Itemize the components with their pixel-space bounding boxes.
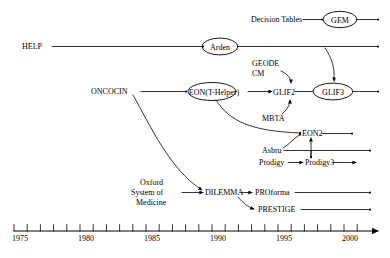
axis-label-1985: 1985 [144,234,160,243]
axis-label-2000: 2000 [342,234,358,243]
node-label-help: HELP [22,42,42,52]
node-label-cm: CM [252,69,264,79]
node-label-prodigy: Prodigy [259,158,284,168]
edge-dilemma-prestige [238,197,254,209]
node-label-prodigy3: Prodigy3 [305,158,334,168]
node-label-oxford: Oxford [140,178,163,188]
node-label-glif2: GLIF2 [273,88,295,98]
node-label-arden: Arden [210,43,230,53]
edge-arden-glif3 [325,48,334,81]
timeline-diagram: Decision Tables GEM HELP Arden GEODE CM … [0,0,390,258]
diagram-canvas [0,0,390,258]
node-label-gem: GEM [331,16,349,26]
node-label-eon-thelper: EON(T-Helper) [189,88,239,98]
node-label-oncocin: ONCOCIN [91,87,127,97]
node-label-mbta: MBTA [262,114,284,124]
node-label-proforma: PROforma [255,188,290,198]
node-label-asbru: Asbru [262,146,282,156]
node-label-prestige: PRESTIGE [258,205,295,215]
edge-eon-eon2 [216,100,300,133]
axis-label-1980: 1980 [78,234,94,243]
node-label-decision-tables: Decision Tables [251,15,302,25]
edge-mbta-glif2 [282,100,290,114]
node-label-system-of: System of [131,188,163,198]
node-label-eon2: EON2 [302,129,322,139]
axis-label-1975: 1975 [12,234,28,243]
axis-label-1990: 1990 [210,234,226,243]
edge-geodecm-glif2 [281,71,291,83]
node-label-medicine: Medicine [136,198,166,208]
node-label-dilemma: DILEMMA [205,188,243,198]
edge-asbru-eon2 [283,135,300,149]
node-label-glif3: GLIF3 [322,88,344,98]
edge-oncocin-dilemma [133,95,202,190]
axis-label-1995: 1995 [276,234,292,243]
node-label-geode: GEODE [252,59,279,69]
axis-ticks [14,225,357,232]
